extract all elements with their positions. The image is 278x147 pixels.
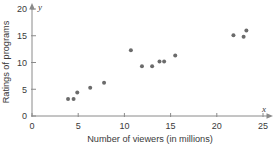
x-tick-label: 5 — [76, 121, 81, 131]
x-axis-variable-letter: x — [261, 104, 266, 114]
data-point — [173, 54, 177, 58]
y-tick-label: 0 — [22, 111, 27, 121]
x-tick-label: 15 — [166, 121, 176, 131]
plot-canvas: 05101520 0510152025 y x Number of viewer… — [0, 0, 278, 147]
data-point — [231, 33, 235, 37]
x-axis-title: Number of viewers (in millions) — [87, 134, 213, 144]
data-point — [140, 64, 144, 68]
data-point — [102, 81, 106, 85]
x-tick-label: 20 — [212, 121, 222, 131]
data-point — [88, 86, 92, 90]
x-axis-tick-labels: 0510152025 — [29, 121, 268, 131]
data-point — [75, 90, 79, 94]
data-point-series — [66, 28, 248, 100]
data-point — [129, 48, 133, 52]
data-point — [66, 97, 70, 101]
y-axis-group: 05101520 — [17, 3, 36, 121]
data-point — [150, 64, 154, 68]
x-axis-arrow-icon — [267, 113, 274, 119]
y-tick-label: 20 — [17, 4, 27, 14]
data-point — [72, 97, 76, 101]
data-point — [244, 28, 248, 32]
data-point — [158, 59, 162, 63]
scatter-plot-figure: 05101520 0510152025 y x Number of viewer… — [0, 0, 278, 147]
y-axis-title: Ratings of programs — [1, 20, 11, 103]
y-tick-label: 10 — [17, 58, 27, 68]
x-tick-label: 25 — [258, 121, 268, 131]
x-axis-group: 0510152025 — [29, 113, 273, 131]
x-tick-label: 0 — [29, 121, 34, 131]
y-tick-label: 5 — [22, 85, 27, 95]
y-axis-variable-letter: y — [37, 2, 42, 12]
data-point — [162, 59, 166, 63]
y-tick-label: 15 — [17, 31, 27, 41]
x-tick-label: 10 — [119, 121, 129, 131]
y-axis-tick-labels: 05101520 — [17, 4, 27, 121]
data-point — [242, 35, 246, 39]
